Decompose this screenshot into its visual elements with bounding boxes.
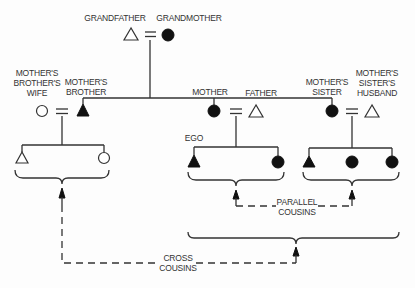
label-mb-1: MOTHER'S [65,77,108,87]
label-grandmother: GRANDMOTHER [156,13,221,23]
label-mbw-2: BROTHER'S [13,78,61,88]
label-msh-2: SISTER'S [359,78,396,88]
label-mother: MOTHER [192,87,228,97]
father-triangle-icon [249,105,263,117]
label-ms-1: MOTHER'S [306,77,349,87]
marriage-equals-icon [346,109,358,114]
ego-sister-circle-icon [272,156,284,168]
grandmother-circle-icon [162,29,174,41]
ms-daughter-1-circle-icon [346,156,358,168]
label-parallel-1: PARALLEL [277,197,318,207]
kinship-diagram-svg: GRANDFATHER GRANDMOTHER MOTHER'S BROTHER… [0,0,415,288]
brace-all-lineage-cousins [188,232,399,244]
marriage-equals-icon [56,109,68,114]
label-grandfather: GRANDFATHER [84,13,145,23]
ms-son-triangle-icon [303,156,315,167]
label-msh-1: MOTHER'S [356,68,399,78]
ms-daughter-2-circle-icon [386,156,398,168]
label-parallel-2: COUSINS [278,207,316,217]
label-ego: EGO [185,133,204,143]
mothers-brothers-wife-circle-icon [37,106,48,117]
brace-ms-children [303,172,399,186]
label-father: FATHER [245,88,277,98]
label-mbw-3: WIFE [27,88,48,98]
label-ms-2: SISTER [312,87,342,97]
grandfather-triangle-icon [124,28,138,40]
label-mbw-1: MOTHER'S [16,68,59,78]
mb-son-triangle-icon [16,152,28,163]
dashed-line-cross-left [62,205,160,263]
brace-ego-siblings [188,172,284,186]
mothers-sister-circle-icon [326,105,338,117]
mb-daughter-circle-icon [99,153,110,164]
ego-triangle-icon [188,155,200,167]
arrow-up-icon [293,247,299,256]
mothers-brother-triangle-icon [77,104,89,116]
mother-circle-icon [208,105,220,117]
mothers-sisters-husband-triangle-icon [365,105,379,117]
marriage-equals-icon [145,32,156,37]
kinship-diagram: GRANDFATHER GRANDMOTHER MOTHER'S BROTHER… [0,0,415,288]
arrow-up-icon [349,190,355,199]
label-cross-1: CROSS [163,253,193,263]
brace-mb-children [15,170,109,184]
label-msh-3: HUSBAND [357,88,397,98]
arrow-up-icon [59,188,65,198]
marriage-equals-icon [230,109,242,114]
label-mb-2: BROTHER [66,87,106,97]
arrow-up-icon [233,190,239,199]
label-cross-2: COUSINS [159,263,197,273]
